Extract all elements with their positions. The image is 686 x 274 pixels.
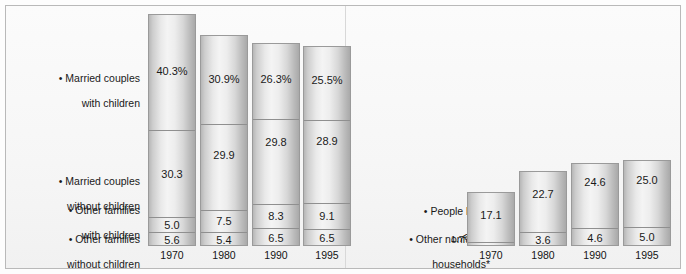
legend-other-families-without-children-line2: without children: [14, 258, 140, 270]
segment-other-nonfamily-households: 5.0: [624, 227, 670, 246]
x-tick-1990-nonfamily: 1990: [571, 249, 619, 261]
segment-married-with-children: 40.3%: [149, 15, 195, 130]
legend-other-families-without-children-line1: • Other families: [14, 233, 140, 245]
segment-value: 5.0: [149, 219, 195, 231]
segment-value: 25.5%: [304, 74, 350, 86]
segment-value: 17.1: [468, 209, 514, 221]
segment-married-without-children: 28.9: [304, 120, 350, 203]
segment-value: 8.3: [253, 210, 299, 222]
legend-married-with-children-line1: • Married couples: [14, 72, 140, 84]
segment-married-without-children: 29.8: [253, 119, 299, 204]
bar-1970-family[interactable]: 40.3% 30.3 5.0 5.6: [148, 14, 196, 246]
x-tick-1995-family: 1995: [303, 249, 351, 261]
segment-other-families-without-children: 5.4: [201, 232, 247, 246]
segment-married-without-children: 30.3: [149, 130, 195, 217]
segment-value: 6.5: [304, 232, 350, 244]
segment-people-living-alone: 17.1: [468, 193, 514, 242]
segment-other-families-with-children: 5.0: [149, 217, 195, 232]
segment-value: 24.6: [572, 176, 618, 188]
x-tick-1980-family: 1980: [200, 249, 248, 261]
legend-other-families-with-children-line1: • Other families: [14, 204, 140, 216]
nonfamily-households-chart: • People living alone • Other nonfamily …: [346, 0, 686, 274]
segment-other-nonfamily-households: 4.6: [572, 228, 618, 246]
segment-value: 5.0: [624, 231, 670, 243]
bar-1980-nonfamily[interactable]: 22.7 3.6: [519, 171, 567, 246]
segment-married-with-children: 30.9%: [201, 36, 247, 124]
segment-married-without-children: 29.9: [201, 124, 247, 210]
segment-other-nonfamily-households: 3.6: [520, 232, 566, 246]
bar-1995-family[interactable]: 25.5% 28.9 9.1 6.5: [303, 46, 351, 246]
x-tick-1980-nonfamily: 1980: [519, 249, 567, 261]
segment-value: 30.9%: [201, 73, 247, 85]
x-tick-1970-nonfamily: 1970: [467, 249, 515, 261]
segment-value: 26.3%: [253, 73, 299, 85]
outside-value-1970-other-nonfamily: 1.7: [446, 233, 464, 244]
bar-1970-nonfamily[interactable]: 17.1: [467, 192, 515, 246]
segment-other-families-without-children: 5.6: [149, 232, 195, 246]
segment-value: 29.9: [201, 149, 247, 161]
segment-value: 5.4: [201, 234, 247, 246]
segment-value: 40.3%: [149, 65, 195, 77]
segment-people-living-alone: 25.0: [624, 161, 670, 227]
segment-other-families-with-children: 7.5: [201, 210, 247, 232]
segment-other-families-without-children: 6.5: [304, 229, 350, 246]
segment-value: 9.1: [304, 210, 350, 222]
bar-1980-family[interactable]: 30.9% 29.9 7.5 5.4: [200, 35, 248, 246]
legend-married-with-children: • Married couples with children: [14, 60, 140, 121]
segment-people-living-alone: 22.7: [520, 172, 566, 232]
segment-value: 28.9: [304, 135, 350, 147]
segment-other-families-without-children: 6.5: [253, 228, 299, 246]
bar-1990-family[interactable]: 26.3% 29.8 8.3 6.5: [252, 43, 300, 246]
segment-other-nonfamily-households: [468, 242, 514, 246]
segment-married-with-children: 25.5%: [304, 47, 350, 120]
bar-1990-nonfamily[interactable]: 24.6 4.6: [571, 163, 619, 246]
legend-married-without-children-line1: • Married couples: [14, 175, 140, 187]
legend-other-families-without-children: • Other families without children: [14, 221, 140, 274]
figure-frame: • Married couples with children • Marrie…: [0, 0, 686, 274]
segment-value: 6.5: [253, 232, 299, 244]
bar-1995-nonfamily[interactable]: 25.0 5.0: [623, 160, 671, 246]
segment-value: 30.3: [149, 168, 195, 180]
segment-married-with-children: 26.3%: [253, 44, 299, 119]
segment-other-families-with-children: 8.3: [253, 204, 299, 228]
segment-value: 7.5: [201, 215, 247, 227]
x-tick-1990-family: 1990: [252, 249, 300, 261]
segment-value: 22.7: [520, 188, 566, 200]
legend-married-with-children-line2: with children: [14, 97, 140, 109]
x-tick-1995-nonfamily: 1995: [623, 249, 671, 261]
segment-other-families-with-children: 9.1: [304, 203, 350, 229]
x-tick-1970-family: 1970: [148, 249, 196, 261]
segment-value: 5.6: [149, 234, 195, 246]
segment-value: 4.6: [572, 232, 618, 244]
segment-value: 25.0: [624, 174, 670, 186]
segment-value: 3.6: [520, 234, 566, 246]
segment-value: 29.8: [253, 136, 299, 148]
family-households-chart: • Married couples with children • Marrie…: [0, 0, 346, 274]
segment-people-living-alone: 24.6: [572, 164, 618, 228]
